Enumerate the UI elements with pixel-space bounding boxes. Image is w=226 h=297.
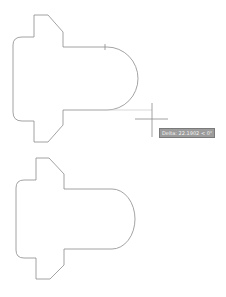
dynamic-input-tooltip: Delta: 22.1902 < 0° bbox=[159, 128, 215, 138]
lower-profile[interactable] bbox=[16, 158, 135, 279]
drawing-canvas[interactable] bbox=[0, 0, 226, 297]
upper-profile[interactable] bbox=[13, 15, 138, 142]
